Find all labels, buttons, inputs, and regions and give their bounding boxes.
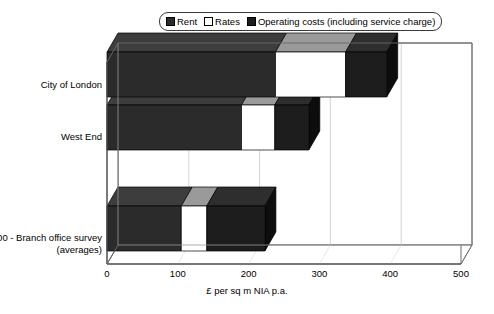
plot-area [0,0,494,314]
bar-3-segment-0-top [107,187,192,206]
bar-0-segment-1-top [276,33,357,52]
x-tick-label-400: 400 [382,268,398,279]
chart-root: Rent Rates Operating costs (including se… [0,0,494,314]
bar-0-segment-0-top [107,33,287,52]
x-axis-title: £ per sq m NIA p.a. [0,285,494,296]
category-label-west-end: West End [61,131,102,143]
bar-0-segment-1-front [276,52,346,97]
x-tick-label-500: 500 [453,268,469,279]
x-tick-label-0: 0 [104,268,109,279]
bar-1-segment-1-front [242,105,275,150]
bar-3-segment-2-front [207,206,265,251]
bar-3-segment-2-top [207,187,276,206]
bar-0-segment-2-front [346,52,387,97]
x-tick-label-300: 300 [311,268,327,279]
bar-3-segment-1-front [181,206,207,251]
bar-0-segment-0-front [107,52,276,97]
x-tick-label-200: 200 [241,268,257,279]
category-label-branch-office: 100 - Branch office survey (averages) [0,232,102,256]
x-tick-label-100: 100 [170,268,186,279]
bar-1-segment-2-front [275,105,309,150]
plot-svg [0,0,494,314]
category-label-city-of-london: City of London [41,79,102,91]
bar-1-segment-0-front [107,105,242,150]
